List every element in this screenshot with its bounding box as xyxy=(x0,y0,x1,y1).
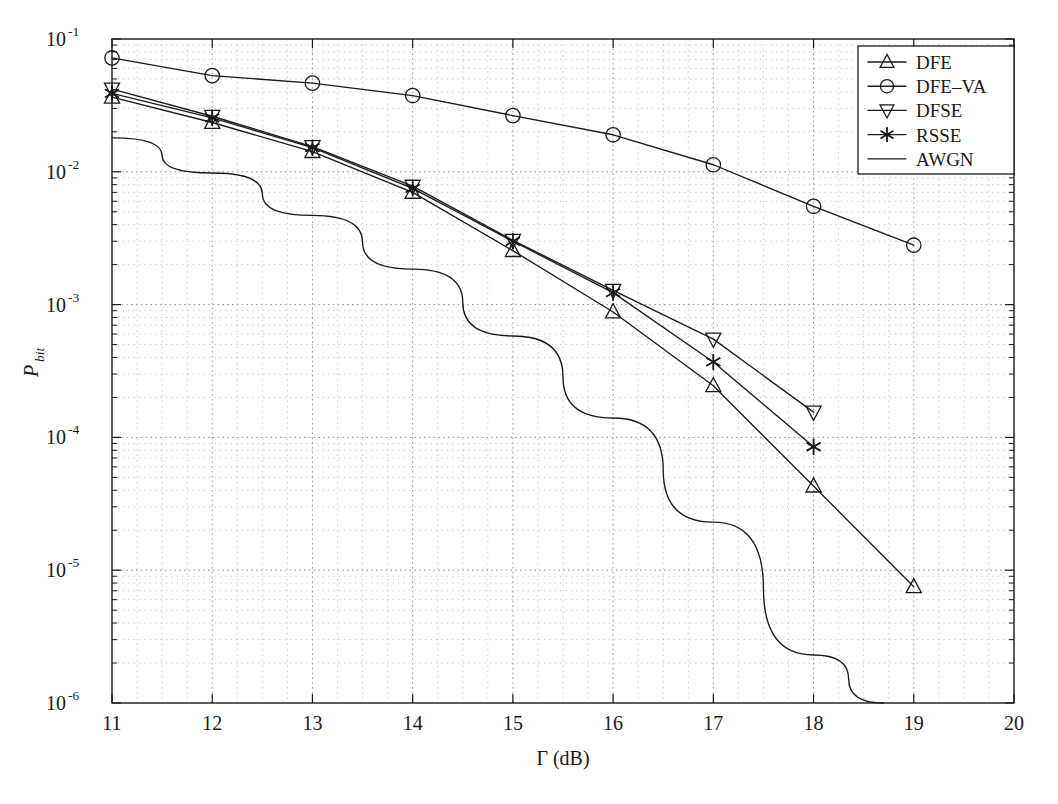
y-tick-label-exponent: -1 xyxy=(68,24,79,39)
x-tick-label: 12 xyxy=(202,712,222,734)
x-tick-label: 18 xyxy=(804,712,824,734)
y-tick-label-exponent: -5 xyxy=(68,555,79,570)
x-tick-label: 11 xyxy=(102,712,121,734)
y-tick-label: 10 xyxy=(46,294,66,316)
chart-legend[interactable]: DFEDFE–VADFSERSSEAWGN xyxy=(858,46,1014,174)
bit-error-rate-plot: 11121314151617181920 10-110-210-310-410-… xyxy=(0,0,1058,804)
y-axis-title-base: P xyxy=(20,365,42,378)
x-tick-label: 15 xyxy=(503,712,523,734)
legend-label: DFE xyxy=(916,52,952,73)
y-tick-label-exponent: -3 xyxy=(68,290,79,305)
y-tick-label-exponent: -2 xyxy=(68,157,79,172)
y-axis-title-subscript: bit xyxy=(32,346,47,362)
figure-container: 11121314151617181920 10-110-210-310-410-… xyxy=(0,0,1058,804)
y-tick-label: 10 xyxy=(46,559,66,581)
legend-label: RSSE xyxy=(916,125,961,146)
x-tick-label: 16 xyxy=(603,712,623,734)
y-tick-label: 10 xyxy=(46,28,66,50)
y-tick-label: 10 xyxy=(46,161,66,183)
y-tick-label: 10 xyxy=(46,426,66,448)
x-tick-label: 20 xyxy=(1004,712,1024,734)
x-tick-label: 14 xyxy=(403,712,423,734)
x-tick-label: 19 xyxy=(904,712,924,734)
legend-label: DFE–VA xyxy=(916,76,987,97)
y-tick-label-exponent: -4 xyxy=(68,422,79,437)
legend-label: DFSE xyxy=(916,100,962,121)
legend-label: AWGN xyxy=(916,149,974,170)
y-tick-label: 10 xyxy=(46,692,66,714)
x-tick-label: 17 xyxy=(703,712,723,734)
y-tick-label-exponent: -6 xyxy=(68,688,79,703)
x-axis-title: Γ (dB) xyxy=(536,747,589,770)
x-tick-label: 13 xyxy=(302,712,322,734)
